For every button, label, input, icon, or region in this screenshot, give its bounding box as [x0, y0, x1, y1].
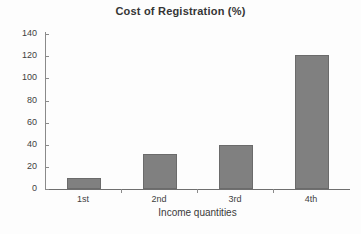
- x-axis-label-1st: 1st: [45, 193, 121, 205]
- y-axis-tick: 40: [0, 145, 46, 146]
- y-axis-tick-label: 140: [22, 28, 37, 39]
- y-axis-tick: 20: [0, 167, 46, 168]
- bar-2nd[interactable]: [143, 154, 177, 189]
- y-axis-tick: 60: [0, 123, 46, 124]
- x-axis-title: Income quantities: [46, 207, 349, 218]
- bar-1st[interactable]: [67, 178, 101, 189]
- y-axis-tick-label: 120: [22, 50, 37, 61]
- y-axis-tick: 0: [0, 189, 46, 190]
- y-axis-tick: 100: [0, 78, 46, 79]
- y-axis-tick-label: 40: [27, 139, 37, 150]
- bar-chart: Cost of Registration (%) 140 120 100 80 …: [0, 0, 361, 234]
- y-axis-tick: 140: [0, 34, 46, 35]
- y-axis-tick: 80: [0, 101, 46, 102]
- x-axis-label-3rd: 3rd: [197, 193, 273, 205]
- y-axis-tick-mark: [45, 189, 49, 190]
- x-axis-label-2nd: 2nd: [121, 193, 197, 205]
- y-axis-tick-label: 0: [32, 183, 37, 194]
- y-axis-tick: 120: [0, 56, 46, 57]
- y-axis-tick-label: 60: [27, 117, 37, 128]
- x-axis-label-4th: 4th: [273, 193, 349, 205]
- bar-3rd[interactable]: [219, 145, 253, 189]
- y-axis-tick-label: 80: [27, 95, 37, 106]
- plot-area: [46, 34, 349, 189]
- bar-4th[interactable]: [295, 55, 329, 189]
- chart-title: Cost of Registration (%): [0, 5, 361, 17]
- y-axis-tick-label: 20: [27, 161, 37, 172]
- y-axis-tick-label: 100: [22, 72, 37, 83]
